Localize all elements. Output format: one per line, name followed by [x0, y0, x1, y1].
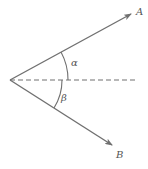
- alpha-label: α: [71, 57, 78, 68]
- beta-label: β: [60, 92, 67, 103]
- vector-a-label: A: [135, 6, 143, 17]
- alpha-arc: [61, 52, 68, 80]
- vector-angle-diagram: α β A B: [0, 0, 148, 169]
- vector-b-label: B: [115, 149, 123, 160]
- vector-a-arrow: [10, 14, 131, 80]
